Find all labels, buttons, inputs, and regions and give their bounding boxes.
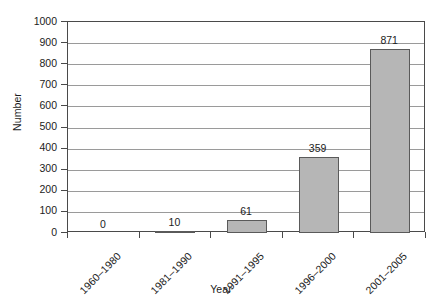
bar-value-label: 61 xyxy=(216,205,276,217)
y-axis-tick-label: 100 xyxy=(0,205,57,215)
y-axis-tick xyxy=(61,190,67,191)
x-axis-title: Year xyxy=(181,283,261,295)
y-axis-tick-label: 0 xyxy=(0,227,57,237)
y-axis-tick xyxy=(61,21,67,22)
y-axis-tick-label: 200 xyxy=(0,184,57,194)
y-axis-tick-label: 900 xyxy=(0,37,57,47)
bar-value-label: 871 xyxy=(359,34,419,46)
x-axis-category-label: 1991–1995 xyxy=(208,250,266,306)
y-axis-tick xyxy=(61,211,67,212)
y-axis-tick xyxy=(61,105,67,106)
bar xyxy=(155,231,195,233)
y-axis-tick-label: 1000 xyxy=(0,16,57,26)
y-axis-tick-label: 300 xyxy=(0,163,57,173)
x-axis-category-label: 1996–2000 xyxy=(280,250,338,306)
y-axis-tick-label: 400 xyxy=(0,142,57,152)
y-axis-tick-label: 700 xyxy=(0,79,57,89)
y-axis-tick xyxy=(61,127,67,128)
y-axis-tick xyxy=(61,42,67,43)
bar-value-label: 0 xyxy=(73,218,133,230)
y-axis-tick xyxy=(61,63,67,64)
x-axis-tick xyxy=(139,232,140,238)
y-axis-tick-label: 600 xyxy=(0,100,57,110)
y-axis-tick xyxy=(61,169,67,170)
y-axis-tick-label: 500 xyxy=(0,121,57,131)
y-axis-tick xyxy=(61,84,67,85)
bar xyxy=(370,49,410,233)
plot-area xyxy=(67,21,425,232)
bar-value-label: 359 xyxy=(288,142,348,154)
bar xyxy=(227,220,267,233)
x-axis-tick xyxy=(282,232,283,238)
y-axis-tick-label: 800 xyxy=(0,58,57,68)
bar-value-label: 10 xyxy=(144,216,204,228)
x-axis-tick xyxy=(425,232,426,238)
x-axis-category-label: 1960–1980 xyxy=(65,250,123,306)
x-axis-tick xyxy=(353,232,354,238)
y-axis-tick xyxy=(61,148,67,149)
x-axis-category-label: 2001–2005 xyxy=(351,250,409,306)
x-axis-category-label: 1981–1990 xyxy=(137,250,195,306)
x-axis-tick xyxy=(210,232,211,238)
bar xyxy=(299,157,339,233)
x-axis-tick xyxy=(67,232,68,238)
bar-chart: Number 10009008007006005004003002001000 … xyxy=(0,0,443,306)
